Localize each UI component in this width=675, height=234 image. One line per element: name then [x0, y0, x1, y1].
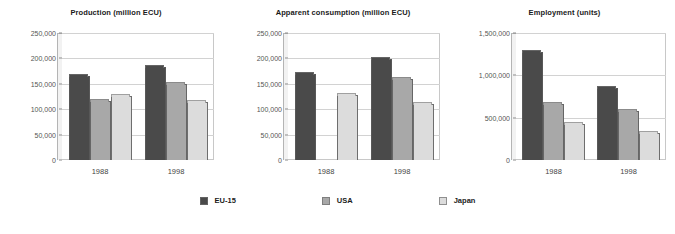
bar-usa[interactable] [618, 111, 639, 160]
x-tick-label: 1988 [516, 167, 591, 176]
bar-group: 1998 [364, 33, 440, 160]
bar-group: 1988 [288, 33, 364, 160]
x-tick-label: 1998 [364, 167, 440, 176]
chart-panels: Production (million ECU) 050,000100,0001… [0, 0, 675, 190]
bar-eu-15[interactable] [69, 76, 90, 160]
x-tick-label: 1998 [138, 167, 214, 176]
bar-groups: 19881998 [516, 33, 666, 160]
y-tick-label: 150,000 [257, 80, 282, 87]
bar-top-face [522, 50, 541, 53]
bar-top-face [69, 74, 88, 77]
bar-groups: 19881998 [62, 33, 214, 160]
chart-legend: EU-15USAJapan [0, 196, 675, 205]
bar-group: 1988 [516, 33, 591, 160]
chart-panel-production: Production (million ECU) 050,000100,0001… [0, 0, 232, 190]
bar-usa[interactable] [543, 104, 564, 160]
legend-label: Japan [454, 196, 476, 205]
bars [62, 33, 138, 160]
legend-swatch-icon [322, 197, 330, 205]
bar-top-face [90, 99, 109, 102]
legend-swatch-icon [439, 197, 447, 205]
legend-item-usa[interactable]: USA [322, 196, 353, 205]
bar-top-face [543, 102, 562, 105]
legend-label: USA [337, 196, 353, 205]
bar-top-face [337, 93, 356, 96]
bar-groups: 19881998 [288, 33, 440, 160]
legend-label: EU-15 [215, 196, 236, 205]
bar-top-face [597, 86, 616, 89]
bar-top-face [166, 82, 185, 85]
y-tick-label: 0 [52, 157, 56, 164]
bar-eu-15[interactable] [295, 74, 316, 160]
chart-figure: Production (million ECU) 050,000100,0001… [0, 0, 675, 234]
y-tick-label: 1,000,000 [479, 72, 510, 79]
bar-top-face [639, 131, 658, 134]
y-tick-label: 250,000 [257, 30, 282, 37]
y-tick-label: 100,000 [31, 106, 56, 113]
y-tick-label: 50,000 [261, 131, 282, 138]
y-tick-label: 200,000 [257, 55, 282, 62]
bar-group: 1998 [138, 33, 214, 160]
legend-item-eu-15[interactable]: EU-15 [200, 196, 236, 205]
legend-item-japan[interactable]: Japan [439, 196, 476, 205]
y-tick-label: 0 [506, 157, 510, 164]
legend-swatch-icon [200, 197, 208, 205]
plot-area-employment: 0500,0001,000,0001,500,000 19881998 [516, 33, 666, 160]
bar-usa[interactable] [90, 101, 111, 160]
x-tick-label: 1988 [288, 167, 364, 176]
bar-top-face [371, 57, 390, 60]
y-tick-label: 1,500,000 [479, 30, 510, 37]
y-tick-label: 100,000 [257, 106, 282, 113]
bar-japan[interactable] [337, 95, 358, 160]
plot-area-apparent-consumption: 050,000100,000150,000200,000250,000 1988… [288, 33, 440, 160]
plot-area-production: 050,000100,000150,000200,000250,000 1988… [62, 33, 214, 160]
bar-japan[interactable] [639, 133, 660, 160]
bar-top-face [618, 109, 637, 112]
bar-eu-15[interactable] [371, 59, 392, 160]
bar-eu-15[interactable] [522, 52, 543, 160]
bar-top-face [413, 102, 432, 105]
bar-usa[interactable] [166, 84, 187, 160]
y-tick-label: 50,000 [35, 131, 56, 138]
chart-title-employment: Employment (units) [454, 8, 675, 17]
x-tick-label: 1998 [591, 167, 666, 176]
bars [516, 33, 591, 160]
bar-eu-15[interactable] [597, 88, 618, 160]
bars [364, 33, 440, 160]
bar-top-face [111, 94, 130, 97]
bars [591, 33, 666, 160]
bars [288, 33, 364, 160]
bar-japan[interactable] [111, 96, 132, 160]
bar-group: 1988 [62, 33, 138, 160]
bar-japan[interactable] [413, 104, 434, 160]
bar-japan[interactable] [187, 102, 208, 160]
bar-top-face [564, 122, 583, 125]
y-tick-label: 250,000 [31, 30, 56, 37]
chart-title-apparent-consumption: Apparent consumption (million ECU) [232, 8, 454, 17]
y-tick-label: 500,000 [485, 114, 510, 121]
chart-panel-apparent-consumption: Apparent consumption (million ECU) 050,0… [232, 0, 454, 190]
chart-title-production: Production (million ECU) [0, 8, 232, 17]
bars [138, 33, 214, 160]
bar-usa[interactable] [392, 79, 413, 160]
bar-top-face [145, 65, 164, 68]
x-tick-label: 1988 [62, 167, 138, 176]
y-tick-label: 0 [278, 157, 282, 164]
bar-top-face [187, 100, 206, 103]
y-tick-label: 200,000 [31, 55, 56, 62]
y-tick-label: 150,000 [31, 80, 56, 87]
bar-group: 1998 [591, 33, 666, 160]
bar-top-face [392, 77, 411, 80]
bar-eu-15[interactable] [145, 67, 166, 160]
bar-japan[interactable] [564, 124, 585, 160]
chart-panel-employment: Employment (units) 0500,0001,000,0001,50… [454, 0, 675, 190]
bar-top-face [295, 72, 314, 75]
